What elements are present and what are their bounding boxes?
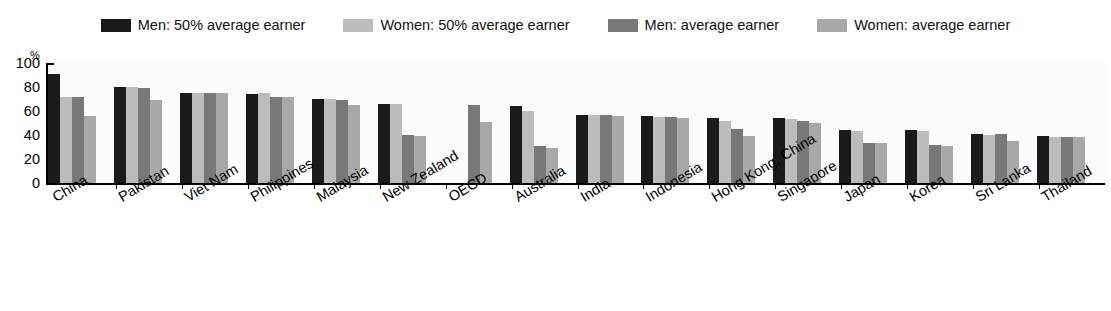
- x-axis-label-cell: Japan: [839, 186, 905, 306]
- legend-entry: Men: 50% average earner: [101, 18, 306, 33]
- x-axis-label-cell: Indonesia: [641, 186, 707, 306]
- bar: [588, 115, 600, 183]
- bar-group: [48, 63, 114, 183]
- bar: [180, 93, 192, 183]
- bar-group: [839, 63, 905, 183]
- x-axis-label-cell: New Zealand: [378, 186, 444, 306]
- legend-label: Men: average earner: [645, 18, 780, 33]
- bar-group: [510, 63, 576, 183]
- bar-group: [1037, 63, 1103, 183]
- bar: [1037, 136, 1049, 183]
- legend-entry: Women: average earner: [817, 18, 1010, 33]
- bar: [48, 74, 60, 183]
- pension-replacement-rate-chart: Men: 50% average earnerWomen: 50% averag…: [0, 0, 1111, 311]
- bar: [126, 87, 138, 183]
- bar: [204, 93, 216, 183]
- bar: [612, 116, 624, 183]
- legend-swatch-icon: [608, 19, 638, 32]
- bar: [576, 115, 588, 183]
- bar-group: [576, 63, 642, 183]
- x-axis-label-cell: Hong Kong, China: [707, 186, 773, 306]
- x-axis-label-cell: Korea: [905, 186, 971, 306]
- legend-label: Women: average earner: [854, 18, 1010, 33]
- bar: [719, 121, 731, 183]
- bar: [905, 130, 917, 183]
- bar-group: [180, 63, 246, 183]
- legend-swatch-icon: [343, 19, 373, 32]
- bar: [192, 93, 204, 183]
- x-axis-label-cell: China: [48, 186, 114, 306]
- bar-group: [312, 63, 378, 183]
- x-axis-labels: ChinaPakistanViet NamPhilippinesMalaysia…: [48, 186, 1103, 306]
- x-axis-label-cell: Pakistan: [114, 186, 180, 306]
- bar: [641, 116, 653, 183]
- bar-group: [114, 63, 180, 183]
- x-axis-label-cell: Thailand: [1037, 186, 1103, 306]
- bar: [84, 116, 96, 183]
- chart-legend: Men: 50% average earnerWomen: 50% averag…: [0, 8, 1111, 42]
- bar: [324, 99, 336, 183]
- x-axis-label-cell: Australia: [510, 186, 576, 306]
- x-axis-label-cell: Philippines: [246, 186, 312, 306]
- bar: [1049, 137, 1061, 183]
- legend-swatch-icon: [817, 19, 847, 32]
- bar: [510, 106, 522, 183]
- bar: [246, 94, 258, 183]
- legend-entry: Women: 50% average earner: [343, 18, 569, 33]
- bar: [917, 131, 929, 183]
- bar: [707, 118, 719, 183]
- legend-swatch-icon: [101, 19, 131, 32]
- bar: [851, 131, 863, 183]
- x-axis-label-cell: OECD: [444, 186, 510, 306]
- bar: [312, 99, 324, 183]
- x-axis-label-cell: Malaysia: [312, 186, 378, 306]
- bar: [114, 87, 126, 183]
- legend-label: Men: 50% average earner: [138, 18, 306, 33]
- y-axis-tick-label: 40: [24, 128, 40, 142]
- bar: [971, 134, 983, 183]
- bar: [60, 97, 72, 183]
- y-axis-tick-label: 60: [24, 104, 40, 118]
- bar: [72, 97, 84, 183]
- bar: [258, 93, 270, 183]
- x-axis-label-cell: Sri Lanka: [971, 186, 1037, 306]
- bar-groups: [48, 63, 1103, 183]
- bar: [390, 104, 402, 183]
- bar: [653, 117, 665, 183]
- y-axis-tick-label: 0: [32, 176, 40, 190]
- bar: [983, 135, 995, 183]
- y-axis-tick-label: 80: [24, 80, 40, 94]
- y-axis: % 100806040200: [0, 48, 46, 198]
- legend-entry: Men: average earner: [608, 18, 780, 33]
- bar: [138, 88, 150, 183]
- bar: [522, 111, 534, 183]
- x-axis-label-cell: India: [576, 186, 642, 306]
- bar: [600, 115, 612, 183]
- bar: [839, 130, 851, 183]
- bar: [378, 104, 390, 183]
- y-axis-tick-label: 20: [24, 152, 40, 166]
- x-axis-label-cell: Viet Nam: [180, 186, 246, 306]
- y-axis-tick-label: 100: [16, 56, 40, 70]
- bar-group: [905, 63, 971, 183]
- legend-label: Women: 50% average earner: [380, 18, 569, 33]
- x-axis-label-cell: Singapore: [773, 186, 839, 306]
